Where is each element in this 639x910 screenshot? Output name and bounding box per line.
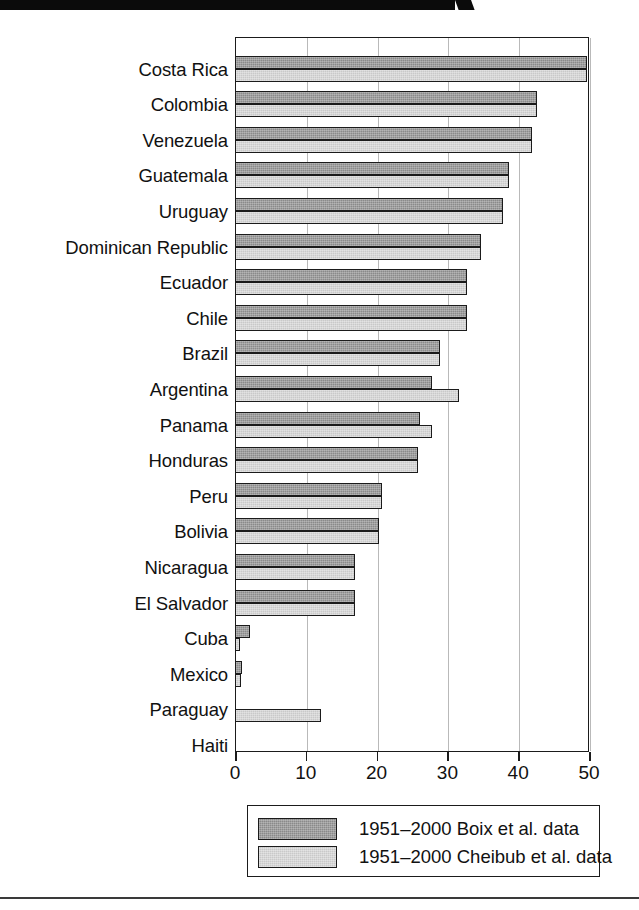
bar-chile-series-2 [235,318,467,331]
legend-item-2[interactable]: 1951–2000 Cheibub et al. data [258,844,612,870]
gridline-50 [590,38,591,751]
category-label-panama: Panama [0,415,228,437]
bar-brazil-series-1 [235,340,440,353]
category-label-costa-rica: Costa Rica [0,59,228,81]
category-label-dominican-republic: Dominican Republic [0,237,228,259]
bar-guatemala-series-1 [235,162,509,175]
x-tick-0 [235,752,237,761]
bar-peru-series-1 [235,483,382,496]
bar-venezuela-series-2 [235,140,532,153]
x-tick-label-20: 20 [347,762,407,784]
x-tick-label-40: 40 [488,762,548,784]
category-label-haiti: Haiti [0,735,228,757]
bar-cuba-series-2 [235,638,240,651]
bar-argentina-series-2 [235,389,459,402]
bar-uruguay-series-2 [235,211,503,224]
bar-argentina-series-1 [235,376,432,389]
bar-colombia-series-1 [235,91,537,104]
bar-uruguay-series-1 [235,198,503,211]
category-label-guatemala: Guatemala [0,165,228,187]
category-label-chile: Chile [0,308,228,330]
category-label-paraguay: Paraguay [0,699,228,721]
bar-paraguay-series-2 [235,709,321,722]
bar-mexico-series-2 [235,674,241,687]
category-label-colombia: Colombia [0,94,228,116]
bar-chile-series-1 [235,305,467,318]
x-tick-label-30: 30 [417,762,477,784]
x-tick-label-0: 0 [205,762,265,784]
page-divider-rule [0,897,639,899]
bar-venezuela-series-1 [235,127,532,140]
category-label-peru: Peru [0,486,228,508]
category-label-el-salvador: El Salvador [0,593,228,615]
bar-dominican-republic-series-2 [235,247,481,260]
chart-legend: 1951–2000 Boix et al. data1951–2000 Chei… [247,805,600,877]
category-label-venezuela: Venezuela [0,130,228,152]
x-tick-20 [377,752,379,761]
bar-panama-series-1 [235,412,420,425]
legend-swatch-dark [258,818,337,840]
bar-bolivia-series-1 [235,518,379,531]
bar-costa-rica-series-2 [235,69,587,82]
category-label-mexico: Mexico [0,664,228,686]
bar-dominican-republic-series-1 [235,234,481,247]
bar-ecuador-series-2 [235,282,467,295]
legend-swatch-light [258,846,337,868]
bar-honduras-series-1 [235,447,418,460]
x-tick-label-50: 50 [559,762,619,784]
bar-peru-series-2 [235,496,382,509]
bar-mexico-series-1 [235,661,242,674]
category-label-nicaragua: Nicaragua [0,557,228,579]
bar-costa-rica-series-1 [235,56,587,69]
bar-cuba-series-1 [235,625,250,638]
bar-guatemala-series-2 [235,175,509,188]
x-tick-50 [589,752,591,761]
bar-colombia-series-2 [235,104,537,117]
category-label-argentina: Argentina [0,379,228,401]
legend-label-2: 1951–2000 Cheibub et al. data [359,846,612,868]
category-label-cuba: Cuba [0,628,228,650]
bar-el-salvador-series-2 [235,603,355,616]
bar-bolivia-series-2 [235,531,379,544]
legend-label-1: 1951–2000 Boix et al. data [359,818,579,840]
category-label-ecuador: Ecuador [0,272,228,294]
x-tick-30 [447,752,449,761]
bar-panama-series-2 [235,425,432,438]
bar-ecuador-series-1 [235,269,467,282]
x-tick-40 [518,752,520,761]
bar-nicaragua-series-2 [235,567,355,580]
horizontal-bar-chart: Costa RicaColombiaVenezuelaGuatemalaUrug… [0,0,639,910]
category-label-brazil: Brazil [0,343,228,365]
bar-honduras-series-2 [235,460,418,473]
category-label-bolivia: Bolivia [0,521,228,543]
bar-brazil-series-2 [235,353,440,366]
x-tick-label-10: 10 [276,762,336,784]
legend-item-1[interactable]: 1951–2000 Boix et al. data [258,816,579,842]
x-tick-10 [306,752,308,761]
category-label-honduras: Honduras [0,450,228,472]
category-label-uruguay: Uruguay [0,201,228,223]
bar-el-salvador-series-1 [235,590,355,603]
bar-nicaragua-series-1 [235,554,355,567]
